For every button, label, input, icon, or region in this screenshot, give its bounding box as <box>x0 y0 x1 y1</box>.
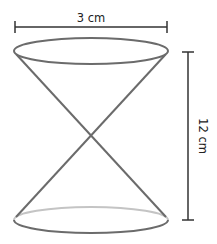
top-base-ellipse <box>14 38 168 64</box>
double-cone-diagram: 3 cm 12 cm <box>0 0 217 244</box>
height-label: 12 cm <box>196 118 210 154</box>
width-label: 3 cm <box>77 11 106 25</box>
height-dimension <box>182 52 194 220</box>
bottom-base-hidden-edge <box>14 207 168 220</box>
bottom-base-front-edge <box>14 220 168 233</box>
